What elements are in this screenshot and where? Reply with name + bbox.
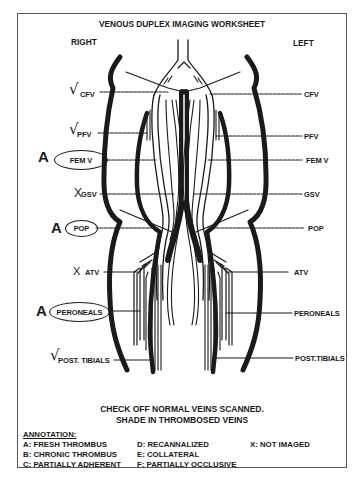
left-pfv-label: PFV: [304, 132, 318, 141]
right-pop-label: POP: [74, 224, 90, 233]
annotation-item-d: D: RECANNALIZED: [137, 440, 209, 449]
right-peroneals-mark[interactable]: A: [36, 302, 47, 319]
right-peroneals-label: PERONEALS: [57, 308, 103, 317]
left-atv-label: ATV: [294, 268, 308, 277]
right-femv-oval[interactable]: FEM V: [54, 150, 108, 170]
left-cfv-label: CFV: [304, 90, 319, 99]
right-femv-mark[interactable]: A: [38, 148, 49, 165]
right-pop-oval[interactable]: POP: [65, 220, 98, 237]
left-gsv-label: GSV: [304, 190, 320, 199]
right-posttibials-label: POST. TIBIALS: [58, 356, 110, 365]
left-pop-label: POP: [308, 224, 324, 233]
right-pfv-label: PFV: [77, 130, 91, 139]
instruction-line-1: CHECK OFF NORMAL VEINS SCANNED.: [0, 404, 364, 414]
annotation-item-f: F: PARTIALLY OCCLUSIVE: [137, 460, 237, 469]
left-posttibials-label: POST.TIBIALS: [295, 354, 345, 363]
right-peroneals-oval[interactable]: PERONEALS: [49, 302, 110, 322]
worksheet-title: VENOUS DUPLEX IMAGING WORKSHEET: [0, 19, 364, 29]
right-atv-mark[interactable]: X: [73, 265, 80, 277]
annotation-item-b: B: CHRONIC THROMBUS: [23, 450, 117, 459]
annotation-item-x: X: NOT IMAGED: [250, 440, 310, 449]
side-label-left: LEFT: [293, 38, 314, 48]
instruction-line-2: SHADE IN THROMBOSED VEINS: [0, 415, 364, 425]
left-femv-label: FEM V: [306, 156, 328, 165]
right-pop-mark[interactable]: A: [51, 219, 62, 236]
annotation-item-e: E: COLLATERAL: [137, 450, 199, 459]
right-femv-label: FEM V: [70, 156, 92, 165]
annotation-item-c: C: PARTIALLY ADHERENT: [23, 460, 121, 469]
annotation-item-a: A: FRESH THROMBUS: [23, 440, 107, 449]
right-gsv-label: GSV: [81, 190, 97, 199]
right-atv-label: ATV: [85, 268, 99, 277]
annotation-heading: ANNOTATION:: [23, 430, 76, 439]
right-cfv-label: CFV: [80, 90, 95, 99]
side-label-right: RIGHT: [71, 37, 97, 47]
right-cfv-mark[interactable]: √: [69, 80, 79, 98]
left-peroneals-label: PERONEALS: [294, 309, 340, 318]
